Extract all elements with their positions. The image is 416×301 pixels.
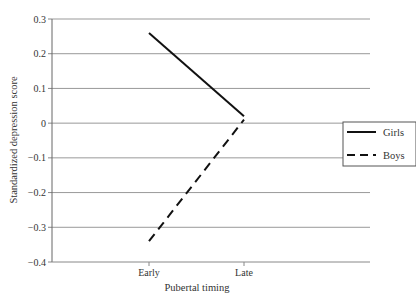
gridlines	[52, 19, 370, 227]
legend-girls-label: Girls	[383, 127, 404, 138]
y-tick-label: 0.2	[34, 48, 47, 59]
y-tick-label: 0.3	[34, 14, 47, 25]
y-axis-ticks: 0.30.20.10−0.1−0.2−0.3−0.4	[28, 14, 52, 268]
legend: Girls Boys	[343, 122, 416, 166]
series-line-girls	[149, 33, 244, 116]
legend-box	[343, 122, 416, 166]
y-tick-label: −0.3	[28, 222, 46, 233]
y-tick-label: 0.1	[34, 83, 47, 94]
legend-boys-label: Boys	[383, 150, 405, 161]
series-line-boys	[149, 120, 244, 242]
y-tick-label: 0	[41, 118, 46, 129]
y-tick-label: −0.2	[28, 187, 46, 198]
x-tick-label-early: Early	[138, 267, 160, 278]
y-tick-label: −0.1	[28, 152, 46, 163]
x-axis-label: Pubertal timing	[164, 282, 230, 293]
x-tick-label-late: Late	[235, 267, 253, 278]
y-axis-label: Standardized depression score	[8, 76, 19, 203]
line-chart: 0.30.20.10−0.1−0.2−0.3−0.4 Early Late Pu…	[0, 0, 416, 301]
data-series	[149, 33, 244, 241]
y-tick-label: −0.4	[28, 257, 46, 268]
